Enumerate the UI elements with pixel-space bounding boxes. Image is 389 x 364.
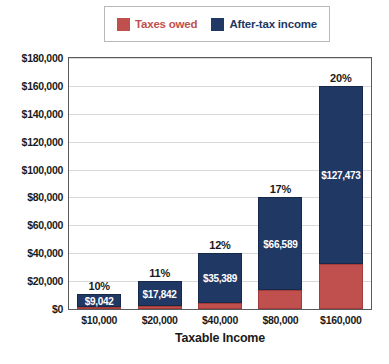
bar-percent-label: 12% bbox=[189, 239, 251, 251]
chart-legend: Taxes owed After-tax income bbox=[104, 6, 330, 42]
y-axis-tick-label: $160,000 bbox=[0, 80, 63, 92]
legend-swatch-red-icon bbox=[117, 18, 130, 31]
bar-segment-after-tax-income[interactable] bbox=[77, 294, 121, 307]
y-axis-tick-label: $180,000 bbox=[0, 52, 63, 64]
bar-segment-after-tax-income[interactable] bbox=[319, 86, 363, 264]
bar-segment-taxes-owed[interactable] bbox=[258, 290, 302, 309]
bar-segment-taxes-owed[interactable] bbox=[77, 307, 121, 309]
y-axis-tick-label: $40,000 bbox=[0, 247, 63, 259]
bar-percent-label: 20% bbox=[310, 72, 372, 84]
bar-segment-taxes-owed[interactable] bbox=[319, 264, 363, 309]
bar-percent-label: 10% bbox=[68, 280, 130, 292]
bar-segment-after-tax-income[interactable] bbox=[258, 197, 302, 290]
legend-item-after-tax-income: After-tax income bbox=[211, 18, 317, 31]
y-axis-tick-label: $140,000 bbox=[0, 108, 63, 120]
legend-item-taxes-owed: Taxes owed bbox=[117, 18, 197, 31]
y-axis-tick-label: $100,000 bbox=[0, 164, 63, 176]
legend-swatch-blue-icon bbox=[211, 18, 224, 31]
bar-segment-after-tax-income[interactable] bbox=[198, 253, 242, 302]
y-axis-tick-label: $20,000 bbox=[0, 275, 63, 287]
y-axis-tick-label: $60,000 bbox=[0, 219, 63, 231]
y-axis-tick-label: $120,000 bbox=[0, 136, 63, 148]
bar-percent-label: 17% bbox=[249, 183, 311, 195]
bar-segment-after-tax-income[interactable] bbox=[138, 281, 182, 306]
y-axis-tick-label: $0 bbox=[0, 303, 63, 315]
tax-stacked-bar-chart: Taxes owed After-tax income $0$20,000$40… bbox=[0, 0, 389, 364]
legend-label-taxes-owed: Taxes owed bbox=[135, 18, 197, 30]
y-axis-tick-label: $80,000 bbox=[0, 191, 63, 203]
legend-label-after-tax-income: After-tax income bbox=[229, 18, 317, 30]
bar-series-container: $9,04210%$17,84211%$35,38912%$66,58917%$… bbox=[69, 58, 371, 309]
bar-segment-taxes-owed[interactable] bbox=[138, 306, 182, 309]
x-axis-tick-label: $160,000 bbox=[301, 314, 381, 326]
bar-segment-taxes-owed[interactable] bbox=[198, 303, 242, 309]
x-axis-title: Taxable Income bbox=[68, 331, 372, 345]
bar-percent-label: 11% bbox=[129, 267, 191, 279]
